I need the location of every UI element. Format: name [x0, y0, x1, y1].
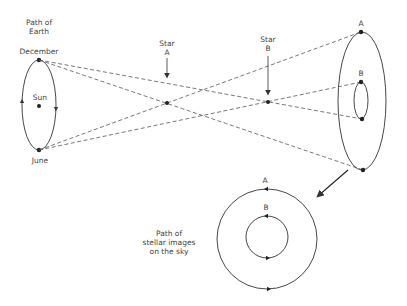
sun-dot [37, 104, 41, 108]
star-a-dot [165, 101, 169, 105]
path-of-images-label: Path of stellar images on the sky [133, 229, 205, 256]
june-label: June [25, 156, 55, 165]
parallax-diagram: Path of Earth December June Sun Star A S… [0, 0, 407, 306]
image-a-label: A [355, 19, 367, 28]
diagram-canvas [0, 0, 407, 306]
path-of-earth-label: Path of Earth [16, 18, 62, 36]
star-b-label: Star B [256, 35, 280, 53]
earth-orbit [20, 58, 58, 152]
sky-a-label: A [259, 176, 271, 185]
star-b-dot [266, 100, 270, 104]
transition-arrow [318, 170, 348, 196]
projected-image-paths [338, 30, 386, 172]
star-a-label: Star A [155, 39, 179, 57]
sky-b-label: B [260, 203, 272, 212]
december-label: December [9, 47, 69, 56]
sun-label: Sun [27, 93, 53, 102]
sight-lines [39, 32, 363, 170]
image-b-label: B [355, 69, 367, 78]
